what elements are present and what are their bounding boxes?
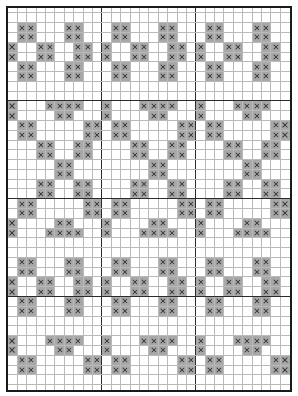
stitch-cell-empty[interactable] — [27, 81, 36, 91]
stitch-cell-empty[interactable] — [46, 365, 55, 375]
stitch-cell-empty[interactable] — [102, 297, 111, 307]
stitch-cell-empty[interactable] — [36, 238, 45, 248]
stitch-cell-empty[interactable] — [177, 13, 186, 23]
stitch-cell-empty[interactable] — [17, 287, 26, 297]
stitch-cell-empty[interactable] — [83, 257, 92, 267]
stitch-cell-empty[interactable] — [243, 189, 252, 199]
stitch-cell-empty[interactable] — [233, 355, 242, 365]
stitch-cell-filled[interactable] — [46, 179, 55, 189]
stitch-cell-empty[interactable] — [233, 306, 242, 316]
stitch-cell-empty[interactable] — [121, 238, 130, 248]
stitch-cell-empty[interactable] — [233, 209, 242, 219]
stitch-cell-empty[interactable] — [46, 297, 55, 307]
stitch-cell-filled[interactable] — [139, 150, 148, 160]
stitch-cell-empty[interactable] — [177, 326, 186, 336]
stitch-cell-filled[interactable] — [46, 336, 55, 346]
stitch-cell-filled[interactable] — [74, 336, 83, 346]
stitch-cell-filled[interactable] — [215, 267, 224, 277]
stitch-cell-empty[interactable] — [130, 218, 139, 228]
stitch-cell-filled[interactable] — [168, 277, 177, 287]
stitch-cell-empty[interactable] — [111, 375, 120, 385]
stitch-cell-empty[interactable] — [233, 199, 242, 209]
stitch-cell-empty[interactable] — [27, 345, 36, 355]
stitch-cell-empty[interactable] — [280, 52, 290, 62]
stitch-cell-empty[interactable] — [280, 169, 290, 179]
stitch-cell-empty[interactable] — [36, 326, 45, 336]
stitch-cell-filled[interactable] — [158, 72, 167, 82]
stitch-cell-empty[interactable] — [215, 326, 224, 336]
stitch-cell-filled[interactable] — [64, 111, 73, 121]
stitch-cell-filled[interactable] — [46, 189, 55, 199]
stitch-cell-filled[interactable] — [168, 101, 177, 111]
stitch-cell-empty[interactable] — [205, 169, 214, 179]
stitch-cell-empty[interactable] — [102, 81, 111, 91]
stitch-cell-filled[interactable] — [177, 277, 186, 287]
stitch-cell-empty[interactable] — [36, 199, 45, 209]
stitch-cell-empty[interactable] — [83, 111, 92, 121]
stitch-cell-empty[interactable] — [64, 140, 73, 150]
pattern-grid[interactable] — [8, 8, 290, 390]
stitch-cell-empty[interactable] — [130, 238, 139, 248]
stitch-cell-filled[interactable] — [177, 150, 186, 160]
stitch-cell-empty[interactable] — [177, 306, 186, 316]
stitch-cell-filled[interactable] — [233, 228, 242, 238]
stitch-cell-filled[interactable] — [111, 257, 120, 267]
stitch-cell-empty[interactable] — [149, 140, 158, 150]
stitch-cell-filled[interactable] — [130, 189, 139, 199]
stitch-cell-empty[interactable] — [130, 355, 139, 365]
stitch-cell-empty[interactable] — [46, 218, 55, 228]
stitch-cell-empty[interactable] — [271, 101, 280, 111]
stitch-cell-empty[interactable] — [158, 277, 167, 287]
stitch-cell-empty[interactable] — [102, 160, 111, 170]
stitch-cell-empty[interactable] — [17, 91, 26, 101]
stitch-cell-empty[interactable] — [130, 169, 139, 179]
stitch-cell-empty[interactable] — [243, 23, 252, 33]
stitch-cell-empty[interactable] — [233, 81, 242, 91]
stitch-cell-empty[interactable] — [83, 101, 92, 111]
stitch-cell-empty[interactable] — [36, 345, 45, 355]
stitch-cell-empty[interactable] — [215, 160, 224, 170]
stitch-cell-empty[interactable] — [168, 326, 177, 336]
stitch-cell-empty[interactable] — [139, 111, 148, 121]
stitch-cell-empty[interactable] — [224, 267, 233, 277]
stitch-cell-filled[interactable] — [186, 365, 195, 375]
stitch-cell-filled[interactable] — [205, 355, 214, 365]
stitch-cell-empty[interactable] — [243, 375, 252, 385]
stitch-cell-empty[interactable] — [27, 150, 36, 160]
stitch-cell-filled[interactable] — [64, 306, 73, 316]
stitch-cell-empty[interactable] — [262, 81, 271, 91]
stitch-cell-filled[interactable] — [55, 336, 64, 346]
stitch-cell-empty[interactable] — [8, 385, 17, 390]
stitch-cell-filled[interactable] — [102, 277, 111, 287]
stitch-cell-empty[interactable] — [121, 52, 130, 62]
stitch-cell-empty[interactable] — [215, 375, 224, 385]
stitch-cell-filled[interactable] — [196, 42, 205, 52]
stitch-cell-empty[interactable] — [121, 179, 130, 189]
stitch-cell-filled[interactable] — [177, 42, 186, 52]
stitch-cell-filled[interactable] — [252, 101, 261, 111]
stitch-cell-empty[interactable] — [224, 238, 233, 248]
stitch-cell-empty[interactable] — [64, 238, 73, 248]
stitch-cell-empty[interactable] — [271, 375, 280, 385]
stitch-cell-empty[interactable] — [224, 81, 233, 91]
stitch-cell-empty[interactable] — [55, 326, 64, 336]
stitch-cell-filled[interactable] — [205, 365, 214, 375]
stitch-cell-filled[interactable] — [74, 297, 83, 307]
stitch-cell-empty[interactable] — [196, 306, 205, 316]
stitch-cell-filled[interactable] — [271, 287, 280, 297]
stitch-cell-empty[interactable] — [83, 23, 92, 33]
stitch-cell-filled[interactable] — [121, 257, 130, 267]
stitch-cell-filled[interactable] — [215, 120, 224, 130]
stitch-cell-empty[interactable] — [252, 199, 261, 209]
stitch-cell-empty[interactable] — [93, 160, 102, 170]
stitch-cell-empty[interactable] — [280, 345, 290, 355]
stitch-cell-empty[interactable] — [74, 209, 83, 219]
stitch-cell-filled[interactable] — [252, 169, 261, 179]
stitch-cell-filled[interactable] — [271, 365, 280, 375]
stitch-cell-filled[interactable] — [111, 23, 120, 33]
stitch-cell-empty[interactable] — [74, 385, 83, 390]
stitch-cell-empty[interactable] — [27, 169, 36, 179]
stitch-cell-empty[interactable] — [8, 297, 17, 307]
stitch-cell-empty[interactable] — [8, 130, 17, 140]
stitch-cell-empty[interactable] — [55, 257, 64, 267]
